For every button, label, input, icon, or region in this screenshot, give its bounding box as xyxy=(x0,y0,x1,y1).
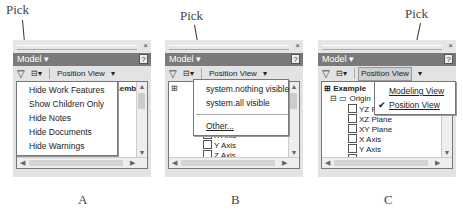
tree-display-icon[interactable]: ⊟▾ xyxy=(31,66,42,81)
close-icon[interactable]: × xyxy=(143,41,148,51)
tree-item[interactable]: Y Axis xyxy=(348,144,381,154)
tree-item[interactable]: Y Axis xyxy=(203,140,236,150)
model-dropdown[interactable]: Model ▾? xyxy=(318,53,456,66)
plane-icon xyxy=(348,104,357,113)
tree-item[interactable]: XY Plane xyxy=(348,124,392,134)
help-icon[interactable]: ? xyxy=(139,54,148,64)
pick-label-b: Pick xyxy=(180,8,203,24)
tree-folder-origin[interactable]: ⊟ ▭ Origin xyxy=(330,94,371,103)
menu-item-hide-documents[interactable]: Hide Documents xyxy=(29,125,117,139)
title-bar[interactable]: × xyxy=(13,40,151,53)
view-dropdown-arrow[interactable]: ▾ xyxy=(111,66,115,81)
title-bar[interactable]: × xyxy=(165,40,303,53)
browser-panel-a: × Model ▾? ▽ ⊟▾ Position View ▾ Assembly… xyxy=(13,40,151,177)
close-icon[interactable]: × xyxy=(295,41,300,51)
filter-icon[interactable]: ▽ xyxy=(322,66,330,81)
plane-icon xyxy=(348,114,357,123)
vertical-scrollbar[interactable]: ▲▼ xyxy=(136,82,147,158)
tree-display-menu: system.nothing visible system.all visibl… xyxy=(193,79,289,136)
tree-item[interactable]: XZ Plane xyxy=(348,114,392,124)
model-label: Model ▾ xyxy=(17,54,49,64)
help-icon[interactable]: ? xyxy=(444,54,453,64)
browser-panel-c: × Model ▾? ▽ ⊟▾ Position View ▾ ⊞ Exampl… xyxy=(318,40,456,177)
browser-toolbar: ▽ ⊟▾ Position View ▾ xyxy=(318,66,456,81)
caption-a: A xyxy=(78,192,87,208)
menu-item-hide-work-features[interactable]: Hide Work Features xyxy=(29,83,117,97)
close-icon[interactable]: × xyxy=(448,41,453,51)
menu-item-nothing-visible[interactable]: system.nothing visible xyxy=(206,82,288,96)
horizontal-scrollbar[interactable]: ◀▶ xyxy=(17,157,147,168)
pick-label-c: Pick xyxy=(405,6,428,22)
model-dropdown[interactable]: Model ▾? xyxy=(165,53,303,66)
horizontal-scrollbar[interactable]: ◀▶ xyxy=(169,157,299,168)
menu-item-hide-notes[interactable]: Hide Notes xyxy=(29,111,117,125)
filter-icon[interactable]: ▽ xyxy=(169,66,177,81)
pick-label-a: Pick xyxy=(6,2,29,18)
model-dropdown[interactable]: Model ▾? xyxy=(13,53,151,66)
model-label: Model ▾ xyxy=(169,54,201,64)
view-dropdown-arrow[interactable]: ▾ xyxy=(418,66,422,81)
tree-item[interactable]: X Axis xyxy=(348,134,381,144)
position-view-button[interactable]: Position View xyxy=(358,67,412,81)
menu-item-hide-warnings[interactable]: Hide Warnings xyxy=(29,139,117,153)
tree-root[interactable]: ⊞ Example xyxy=(324,84,366,93)
browser-toolbar: ▽ ⊟▾ Position View ▾ xyxy=(13,66,151,81)
title-bar[interactable]: × xyxy=(318,40,456,53)
caption-b: B xyxy=(231,192,240,208)
menu-item-all-visible[interactable]: system.all visible xyxy=(206,96,288,110)
caption-c: C xyxy=(384,192,393,208)
filter-icon[interactable]: ▽ xyxy=(17,66,25,81)
axis-icon xyxy=(203,140,212,149)
tree-display-icon[interactable]: ⊟▾ xyxy=(336,66,347,81)
position-view-button[interactable]: Position View xyxy=(55,66,107,81)
help-icon[interactable]: ? xyxy=(291,54,300,64)
assembly-icon: ⊞ xyxy=(171,84,178,93)
menu-item-position-view[interactable]: ✔Position View xyxy=(389,98,455,112)
menu-item-show-children-only[interactable]: Show Children Only xyxy=(29,97,117,111)
model-label: Model ▾ xyxy=(322,54,354,64)
plane-icon xyxy=(348,124,357,133)
browser-panel-b: × Model ▾? ▽ ⊟▾ Position View ▾ ⊞ ...am … xyxy=(165,40,303,177)
filter-menu: Hide Work Features Show Children Only Hi… xyxy=(16,81,118,156)
axis-icon xyxy=(348,134,357,143)
vertical-scrollbar[interactable]: ▲▼ xyxy=(288,82,299,158)
check-icon: ✔ xyxy=(378,98,386,112)
menu-item-modeling-view[interactable]: Modeling View xyxy=(389,84,455,98)
horizontal-scrollbar[interactable]: ◀▶ xyxy=(322,157,452,168)
axis-icon xyxy=(348,144,357,153)
view-menu: Modeling View ✔Position View xyxy=(374,81,456,115)
menu-item-other[interactable]: Other... xyxy=(206,119,288,133)
